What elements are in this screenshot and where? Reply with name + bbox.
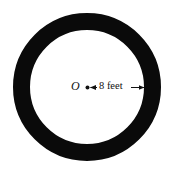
ring-diagram [0, 0, 172, 171]
center-label: O [71, 80, 80, 92]
center-point-icon [86, 86, 90, 90]
radius-dimension-label: 8 feet [98, 81, 124, 92]
annulus-figure: O 8 feet [0, 0, 172, 171]
